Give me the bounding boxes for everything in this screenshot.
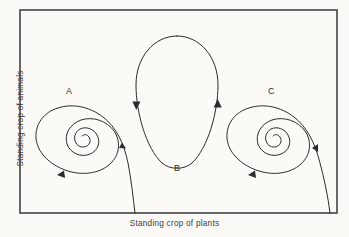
- curve-label-a: A: [66, 86, 72, 96]
- trajectory-c: [227, 106, 330, 213]
- trajectory-b: [132, 36, 221, 168]
- trajectory-a-arrow-1: [119, 143, 126, 149]
- y-axis-label: Standing crop of animals: [14, 0, 28, 237]
- trajectory-a-arrow-2: [57, 171, 65, 179]
- trajectory-c-path: [227, 106, 330, 213]
- trajectory-b-arrow-left: [132, 102, 140, 111]
- trajectory-c-arrow-2: [248, 171, 256, 179]
- curve-label-c: C: [268, 86, 275, 96]
- phase-plane-figure: A B C Standing crop of plants Standing c…: [0, 0, 349, 237]
- trajectory-a-path: [36, 106, 135, 213]
- plot-frame: [20, 10, 337, 213]
- trajectory-b-arrow-right: [214, 99, 222, 108]
- phase-plane-canvas: [0, 0, 349, 237]
- trajectory-b-path: [136, 36, 218, 168]
- trajectory-c-arrow-1: [312, 144, 318, 152]
- trajectory-a: [36, 106, 135, 213]
- x-axis-label: Standing crop of plants: [0, 219, 349, 228]
- curve-label-b: B: [174, 163, 180, 173]
